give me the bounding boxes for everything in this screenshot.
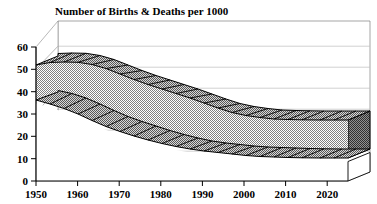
y-tick-label-0: 0: [23, 175, 29, 187]
x-tick-label-2000: 2000: [233, 188, 256, 200]
y-tick-label-30: 30: [17, 108, 29, 120]
x-tick-label-2010: 2010: [275, 188, 298, 200]
x-tick-label-1970: 1970: [108, 188, 131, 200]
y-tick-label-40: 40: [17, 86, 29, 98]
y-tick-label-10: 10: [17, 153, 29, 165]
y-tick-label-20: 20: [17, 130, 29, 142]
chart-container: Number of Births & Deaths per 1000: [0, 0, 377, 204]
x-tick-label-2020: 2020: [316, 188, 339, 200]
chart-title: Number of Births & Deaths per 1000: [55, 5, 229, 17]
y-tick-label-60: 60: [17, 41, 29, 53]
births-deaths-area-chart: Number of Births & Deaths per 1000: [0, 0, 377, 204]
x-tick-label-1990: 1990: [191, 188, 214, 200]
x-tick-label-1960: 1960: [67, 188, 90, 200]
x-tick-label-1980: 1980: [150, 188, 173, 200]
y-tick-label-50: 50: [17, 63, 29, 75]
x-tick-label-1950: 1950: [25, 188, 48, 200]
